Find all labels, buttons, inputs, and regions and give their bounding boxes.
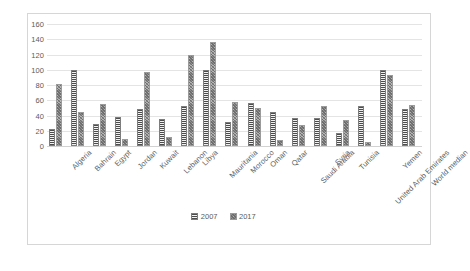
legend-item-2007[interactable]: 2007 (191, 212, 217, 221)
bar-2017-saudi-arabia[interactable] (299, 125, 305, 146)
bar-2017-libya[interactable] (188, 55, 194, 146)
y-tick-label-120: 120 (31, 50, 44, 59)
y-tick-label-0: 0 (40, 142, 44, 151)
bar-group (312, 24, 334, 146)
x-tick-label-algeria: Algeria (70, 148, 93, 171)
bar-2017-oman[interactable] (255, 108, 261, 146)
bar-2017-egypt[interactable] (100, 104, 106, 146)
bar-group (223, 24, 245, 146)
bar-group (290, 24, 312, 146)
bar-group (69, 24, 91, 146)
bar-2017-mauritania[interactable] (210, 42, 216, 146)
bar-2007-yemen[interactable] (380, 70, 386, 146)
bar-2007-oman[interactable] (248, 103, 254, 146)
bar-2017-kuwait[interactable] (144, 72, 150, 146)
bar-2007-bahrain[interactable] (71, 70, 77, 146)
bar-group (246, 24, 268, 146)
x-tick-label-kuwait: Kuwait (158, 148, 181, 171)
bar-2017-qatar[interactable] (277, 140, 283, 146)
bar-2007-kuwait[interactable] (137, 109, 143, 146)
bar-group (91, 24, 113, 146)
x-tick-label-tunisia: Tunisia (357, 148, 381, 172)
bar-2017-lebanon[interactable] (166, 137, 172, 146)
y-tick-label-100: 100 (31, 65, 44, 74)
y-tick-label-40: 40 (35, 111, 44, 120)
bar-2017-united-arab-emirates[interactable] (365, 142, 371, 146)
bar-group (47, 24, 69, 146)
legend-label-2007: 2007 (201, 212, 218, 221)
y-tick-label-20: 20 (35, 126, 44, 135)
x-tick-label-jordan: Jordan (136, 148, 159, 171)
y-axis: 160140120100806040200 (27, 24, 47, 146)
bar-group (113, 24, 135, 146)
bar-2007-morocco[interactable] (225, 122, 231, 146)
bar-2007-libya[interactable] (181, 106, 187, 146)
plot-area (47, 24, 422, 146)
bars-layer (47, 24, 422, 146)
y-tick-label-80: 80 (35, 81, 44, 90)
legend-swatch-icon-2007 (191, 213, 198, 220)
x-axis: AlgeriaBahrainEgyptJordanKuwaitLebanonLi… (47, 148, 422, 210)
bar-2017-algeria[interactable] (56, 84, 62, 146)
bar-2007-egypt[interactable] (93, 124, 99, 146)
bar-group (378, 24, 400, 146)
chart-legend: 20072017 (0, 212, 447, 221)
bar-2007-jordan[interactable] (115, 117, 121, 146)
legend-swatch-icon-2017 (230, 213, 237, 220)
x-tick-label-egypt: Egypt (113, 148, 133, 168)
bar-2007-qatar[interactable] (270, 112, 276, 146)
bar-group (268, 24, 290, 146)
bar-2017-yemen[interactable] (387, 75, 393, 146)
y-tick-label-160: 160 (31, 20, 44, 29)
bar-group (157, 24, 179, 146)
bar-2017-morocco[interactable] (232, 102, 238, 146)
bar-2007-algeria[interactable] (49, 129, 55, 146)
bar-2017-syria[interactable] (321, 106, 327, 146)
bar-2007-syria[interactable] (314, 118, 320, 146)
legend-label-2017: 2017 (239, 212, 256, 221)
bar-group (356, 24, 378, 146)
y-tick-label-60: 60 (35, 96, 44, 105)
bar-2017-tunisia[interactable] (343, 120, 349, 146)
bar-2007-united-arab-emirates[interactable] (358, 106, 364, 146)
bar-group (400, 24, 422, 146)
bar-group (135, 24, 157, 146)
legend-item-2017[interactable]: 2017 (230, 212, 256, 221)
bar-group (201, 24, 223, 146)
x-tick-label-yemen: Yemen (401, 148, 424, 171)
bar-2017-jordan[interactable] (122, 139, 128, 146)
y-tick-label-140: 140 (31, 35, 44, 44)
x-tick-label-syria: Syria (333, 148, 352, 167)
x-tick-label-qatar: Qatar (289, 148, 309, 168)
bar-2007-lebanon[interactable] (159, 119, 165, 146)
bar-2007-tunisia[interactable] (336, 133, 342, 146)
bar-2007-saudi-arabia[interactable] (292, 118, 298, 146)
bar-2007-mauritania[interactable] (203, 70, 209, 146)
bar-2017-world-median[interactable] (409, 105, 415, 146)
bar-2007-world-median[interactable] (402, 109, 408, 146)
bar-2017-bahrain[interactable] (78, 112, 84, 146)
bar-group (179, 24, 201, 146)
bar-group (334, 24, 356, 146)
